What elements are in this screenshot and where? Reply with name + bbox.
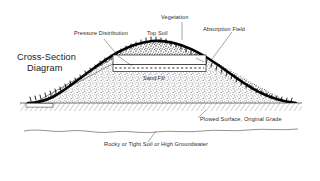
label-pressure-distribution: Pressure Distribution <box>74 30 128 36</box>
mound-system-cross-section-svg: Cross-Section Diagram Pressure Distribut… <box>0 0 320 181</box>
absorption-field-rect <box>113 55 206 65</box>
label-vegetation: Vegetation <box>161 14 188 20</box>
diagram-title-line1: Cross-Section <box>17 52 76 62</box>
cross-section-diagram-page: Cross-Section Diagram Pressure Distribut… <box>0 0 320 181</box>
diagram-title-line2: Diagram <box>27 63 63 73</box>
absorption-field-box <box>113 55 206 72</box>
label-top-soil: Top Soil <box>147 30 168 36</box>
plowed-surface-detail-box <box>26 104 53 108</box>
label-sand-fill: Sand Fill <box>143 75 165 81</box>
label-rocky-soil: Rocky or Tight Soil or High Groundwater <box>104 141 208 147</box>
original-grade-zone <box>20 103 302 111</box>
label-absorption-field: Absorption Field <box>203 26 245 32</box>
plowed-surface-hatch <box>20 103 302 111</box>
label-plowed-surface: Plowed Surface, Original Grade <box>200 116 282 122</box>
